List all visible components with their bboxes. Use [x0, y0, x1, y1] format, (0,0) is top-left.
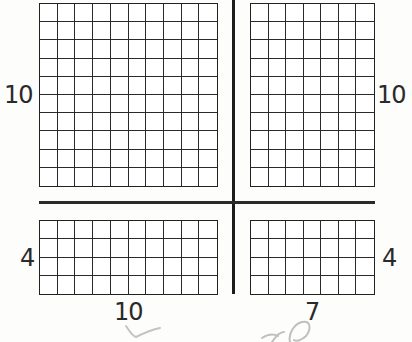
grid-cell — [286, 40, 304, 58]
grid-cell — [40, 59, 58, 77]
grid-cell — [356, 95, 374, 113]
grid-cell — [182, 22, 200, 40]
grid-cell — [199, 239, 217, 257]
grid-cell — [182, 59, 200, 77]
grid-cell — [75, 59, 93, 77]
grid-cell — [58, 258, 76, 276]
grid-cell — [146, 168, 164, 186]
grid-cell — [40, 221, 58, 239]
grid-cell — [75, 221, 93, 239]
grid-cell — [321, 258, 339, 276]
grid-cell — [304, 131, 322, 149]
grid-cell — [286, 258, 304, 276]
grid-cell — [164, 59, 182, 77]
grid-cell — [286, 239, 304, 257]
grid-cell — [129, 4, 147, 22]
grid-cell — [199, 131, 217, 149]
grid-cell — [40, 131, 58, 149]
grid-cell — [129, 22, 147, 40]
grid-cell — [75, 258, 93, 276]
grid-cell — [182, 221, 200, 239]
grid-cell — [111, 95, 129, 113]
grid-cell — [146, 258, 164, 276]
grid-cell — [356, 239, 374, 257]
grid-cell — [182, 40, 200, 58]
grid-cell — [251, 95, 269, 113]
grid-bottom-left-10x4 — [39, 220, 218, 295]
grid-cell — [93, 150, 111, 168]
label-top-left-height: 10 — [4, 83, 33, 107]
grid-cell — [111, 77, 129, 95]
grid-cell — [286, 95, 304, 113]
grid-cell — [286, 221, 304, 239]
grid-cell — [164, 239, 182, 257]
grid-cell — [146, 77, 164, 95]
grid-cell — [182, 239, 200, 257]
grid-cell — [199, 95, 217, 113]
grid-cell — [75, 77, 93, 95]
grid-cell — [111, 113, 129, 131]
grid-cell — [339, 22, 357, 40]
grid-cell — [251, 77, 269, 95]
grid-cell — [58, 150, 76, 168]
grid-cell — [304, 239, 322, 257]
grid-cell — [304, 4, 322, 22]
grid-cell — [146, 276, 164, 294]
grid-cell — [269, 150, 287, 168]
grid-cell — [321, 22, 339, 40]
grid-cell — [164, 131, 182, 149]
grid-cell — [304, 150, 322, 168]
grid-cell — [321, 95, 339, 113]
grid-cell — [58, 239, 76, 257]
grid-cell — [304, 221, 322, 239]
grid-cell — [339, 95, 357, 113]
grid-cell — [199, 258, 217, 276]
grid-cell — [40, 276, 58, 294]
grid-cell — [304, 77, 322, 95]
grid-cell — [146, 239, 164, 257]
grid-cell — [111, 22, 129, 40]
grid-cell — [304, 113, 322, 131]
grid-cell — [111, 221, 129, 239]
grid-cell — [182, 258, 200, 276]
grid-cell — [146, 59, 164, 77]
grid-cell — [164, 168, 182, 186]
vertical-divider-line — [232, 0, 235, 294]
grid-cell — [269, 59, 287, 77]
grid-top-right-7x10 — [250, 3, 375, 187]
grid-cell — [251, 113, 269, 131]
grid-cell — [304, 168, 322, 186]
grid-cell — [111, 258, 129, 276]
grid-cell — [251, 150, 269, 168]
grid-cell — [356, 150, 374, 168]
grid-cell — [111, 4, 129, 22]
grid-cell — [269, 22, 287, 40]
grid-cell — [321, 59, 339, 77]
grid-cell — [146, 4, 164, 22]
grid-cell — [356, 168, 374, 186]
grid-cell — [182, 4, 200, 22]
grid-cell — [111, 168, 129, 186]
grid-bottom-right-7x4 — [250, 220, 375, 295]
grid-cell — [93, 221, 111, 239]
grid-cell — [40, 77, 58, 95]
grid-cell — [58, 131, 76, 149]
grid-cell — [356, 258, 374, 276]
grid-cell — [129, 258, 147, 276]
grid-cell — [58, 276, 76, 294]
grid-cell — [321, 77, 339, 95]
grid-cell — [269, 40, 287, 58]
grid-cell — [199, 4, 217, 22]
grid-cell — [356, 22, 374, 40]
grid-cell — [199, 150, 217, 168]
grid-cell — [321, 4, 339, 22]
grid-cell — [75, 276, 93, 294]
grid-cell — [286, 131, 304, 149]
grid-cell — [251, 221, 269, 239]
grid-cell — [321, 276, 339, 294]
grid-cell — [75, 4, 93, 22]
grid-cell — [339, 168, 357, 186]
grid-cell — [339, 131, 357, 149]
grid-cell — [339, 239, 357, 257]
grid-cell — [40, 150, 58, 168]
